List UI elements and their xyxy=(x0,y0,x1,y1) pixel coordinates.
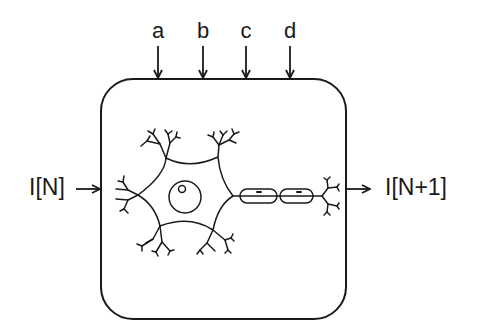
dendrite-left xyxy=(116,176,138,213)
nucleus xyxy=(169,181,201,213)
input-label-b: b xyxy=(193,20,213,42)
dendrite-upper-right xyxy=(208,129,239,157)
input-label-a: a xyxy=(148,20,168,42)
input-label-c: c xyxy=(236,20,256,42)
dendrite-upper-left xyxy=(141,129,180,158)
input-signal-label: I[N] xyxy=(29,176,65,198)
neuron-illustration xyxy=(116,129,339,256)
top-input-arrows xyxy=(158,46,290,78)
input-label-d: d xyxy=(280,20,300,42)
neuron-diagram xyxy=(0,0,481,336)
myelin-sheath xyxy=(240,189,313,203)
nucleolus xyxy=(179,186,186,193)
dendrite-lower-right xyxy=(197,230,234,254)
dendrite-lower-left xyxy=(137,226,174,256)
axon-terminals xyxy=(322,177,339,215)
soma xyxy=(138,157,233,230)
output-signal-label: I[N+1] xyxy=(385,176,447,198)
